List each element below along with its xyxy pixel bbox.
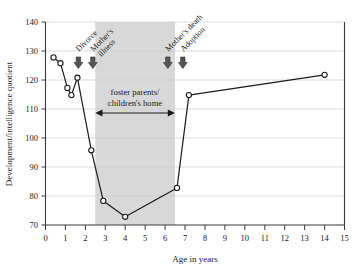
y-axis-title: Development/intelligence quotient	[4, 61, 14, 186]
data-point	[101, 198, 106, 203]
data-point	[69, 93, 74, 98]
x-tick-label: 3	[103, 233, 107, 243]
foster-label-line2: children's home	[108, 98, 162, 108]
data-point	[123, 214, 128, 219]
x-tick-label: 11	[261, 233, 269, 243]
x-tick-label: 5	[143, 233, 147, 243]
x-axis-title: Age in years	[172, 254, 218, 264]
data-point	[186, 93, 191, 98]
y-tick-label: 100	[25, 133, 38, 143]
y-axis-tick-labels: 140 130 120 110 100 90 80 70	[25, 17, 38, 230]
x-tick-label: 15	[340, 233, 349, 243]
x-axis-tick-labels: 0 1 2 3 4 5 6 7 8 9 10 11 12 13 14 15	[43, 233, 348, 243]
data-point	[89, 148, 94, 153]
y-tick-label: 80	[30, 191, 39, 201]
x-tick-label: 12	[280, 233, 289, 243]
x-tick-label: 9	[223, 233, 227, 243]
y-tick-label: 110	[26, 104, 38, 114]
y-tick-label: 70	[30, 220, 39, 230]
x-tick-label: 14	[320, 233, 329, 243]
x-tick-label: 6	[163, 233, 167, 243]
y-tick-label: 140	[25, 17, 38, 27]
data-point	[174, 185, 179, 190]
data-point	[58, 61, 63, 66]
x-tick-label: 10	[241, 233, 250, 243]
x-tick-label: 7	[183, 233, 187, 243]
plot-background	[46, 22, 345, 225]
data-point	[75, 75, 80, 80]
data-point	[65, 85, 70, 90]
chart-container: 140 130 120 110 100 90 80 70	[0, 0, 359, 277]
x-tick-label: 4	[123, 233, 128, 243]
y-tick-label: 120	[25, 75, 38, 85]
y-axis-ticks	[42, 22, 46, 225]
data-point	[51, 55, 56, 60]
x-tick-label: 2	[83, 233, 87, 243]
y-tick-label: 90	[30, 162, 39, 172]
iq-development-line-chart: 140 130 120 110 100 90 80 70	[0, 0, 359, 277]
data-point	[322, 72, 327, 77]
x-axis-ticks	[46, 225, 345, 230]
x-tick-label: 0	[43, 233, 47, 243]
x-tick-label: 1	[63, 233, 67, 243]
foster-label-line1: foster parents/	[111, 87, 161, 97]
y-tick-label: 130	[25, 46, 38, 56]
x-tick-label: 8	[203, 233, 207, 243]
x-tick-label: 13	[300, 233, 309, 243]
